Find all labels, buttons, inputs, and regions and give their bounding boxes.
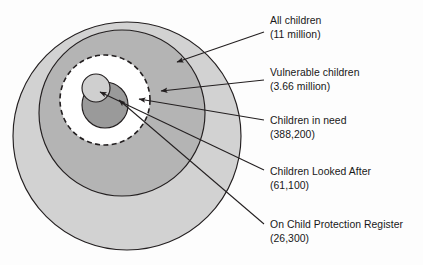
callout-label-children-looked-after: Children Looked After [270,166,371,177]
callout-label-vulnerable-children: Vulnerable children [270,67,360,78]
callout-labels-group: All children(11 million)Vulnerable child… [270,15,404,244]
venn-diagram-container: All children(11 million)Vulnerable child… [0,0,423,265]
circle-children-looked-after [82,74,110,102]
callout-label-on-child-protection-register: On Child Protection Register [270,219,404,230]
callout-value-on-child-protection-register: (26,300) [270,233,309,244]
callout-label-all-children: All children [270,15,322,26]
callout-value-vulnerable-children: (3.66 million) [270,81,330,92]
callout-value-all-children: (11 million) [270,29,321,40]
callout-value-children-in-need: (388,200) [270,129,315,140]
nested-circles-diagram: All children(11 million)Vulnerable child… [0,0,423,265]
circles-group [13,22,241,250]
callout-value-children-looked-after: (61,100) [270,180,309,191]
callout-label-children-in-need: Children in need [270,115,347,126]
